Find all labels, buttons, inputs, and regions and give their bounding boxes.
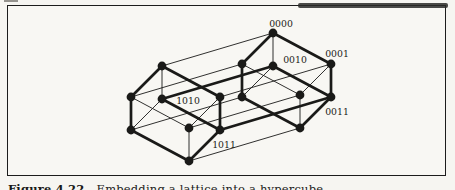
graph-node (158, 95, 167, 104)
graph-node (269, 62, 278, 71)
graph-edge-bold (242, 97, 300, 128)
graph-node (216, 126, 225, 135)
figure-caption: Figure 4.22Embedding a lattice into a hy… (8, 182, 448, 190)
scanned-figure-page: 000000010010001110101011 Figure 4.22Embe… (0, 0, 455, 190)
graph-node (127, 93, 136, 102)
graph-node (158, 62, 167, 71)
graph-node (296, 124, 305, 133)
node-label: 1011 (212, 139, 236, 150)
node-label: 1010 (176, 95, 200, 106)
node-label: 0001 (325, 48, 349, 59)
graph-node (185, 124, 194, 133)
graph-node (185, 157, 194, 166)
caption-text: Embedding a lattice into a hypercube (97, 182, 324, 190)
graph-node (327, 93, 336, 102)
graph-node (238, 93, 247, 102)
node-label: 0011 (325, 106, 349, 117)
graph-node (238, 60, 247, 69)
node-label: 0000 (269, 18, 293, 29)
hypercube-graph: 000000010010001110101011 (0, 0, 455, 190)
graph-edge-bold (131, 130, 189, 161)
graph-node (296, 91, 305, 100)
graph-node (327, 60, 336, 69)
graph-node (127, 126, 136, 135)
graph-node (269, 29, 278, 38)
graph-node (216, 93, 225, 102)
graph-edge-bold (162, 66, 220, 97)
node-label: 0010 (283, 54, 307, 65)
caption-number: Figure 4.22 (8, 182, 85, 190)
